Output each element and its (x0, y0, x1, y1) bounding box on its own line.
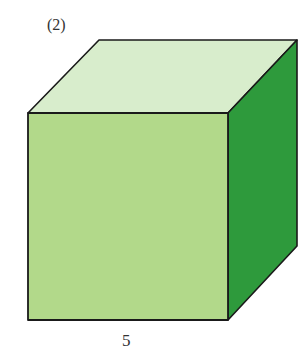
cube-figure: (2) 5 (0, 0, 304, 364)
cube-front-face (28, 113, 228, 320)
edge-length-label: 5 (122, 332, 131, 349)
cube-drawing (0, 0, 304, 364)
figure-number-label: (2) (47, 17, 66, 33)
